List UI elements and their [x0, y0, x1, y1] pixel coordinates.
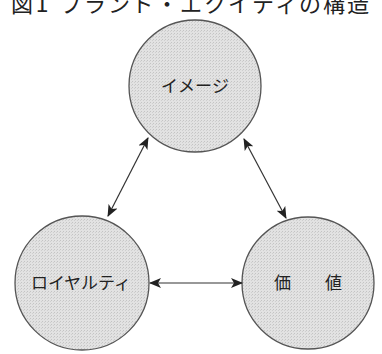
- node-label-value: 価 値: [274, 273, 342, 293]
- node-image: イメージ: [129, 20, 261, 152]
- arrow-image-value: [244, 139, 286, 218]
- arrow-image-loyalty: [108, 138, 148, 216]
- node-loyalty: ロイヤルティ: [15, 216, 149, 350]
- node-label-image: イメージ: [161, 76, 229, 96]
- node-value: 価 値: [242, 217, 374, 349]
- node-label-loyalty: ロイヤルティ: [31, 273, 131, 293]
- brand-equity-diagram: イメージ ロイヤルティ 価 値: [0, 0, 382, 354]
